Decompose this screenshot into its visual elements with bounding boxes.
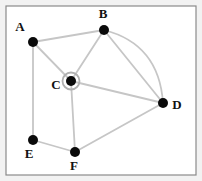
node-F[interactable] <box>70 147 80 157</box>
node-A[interactable] <box>28 37 38 47</box>
node-label-C: C <box>51 77 60 92</box>
node-label-F: F <box>70 158 78 173</box>
node-C[interactable] <box>66 76 76 86</box>
graph-canvas: ABCDEF <box>0 0 202 181</box>
node-label-E: E <box>25 146 34 161</box>
node-label-A: A <box>15 19 25 34</box>
node-D[interactable] <box>158 98 168 108</box>
node-B[interactable] <box>99 25 109 35</box>
node-label-D: D <box>172 97 181 112</box>
node-label-B: B <box>99 6 108 21</box>
graph-figure: ABCDEF <box>0 0 202 181</box>
node-E[interactable] <box>28 135 38 145</box>
